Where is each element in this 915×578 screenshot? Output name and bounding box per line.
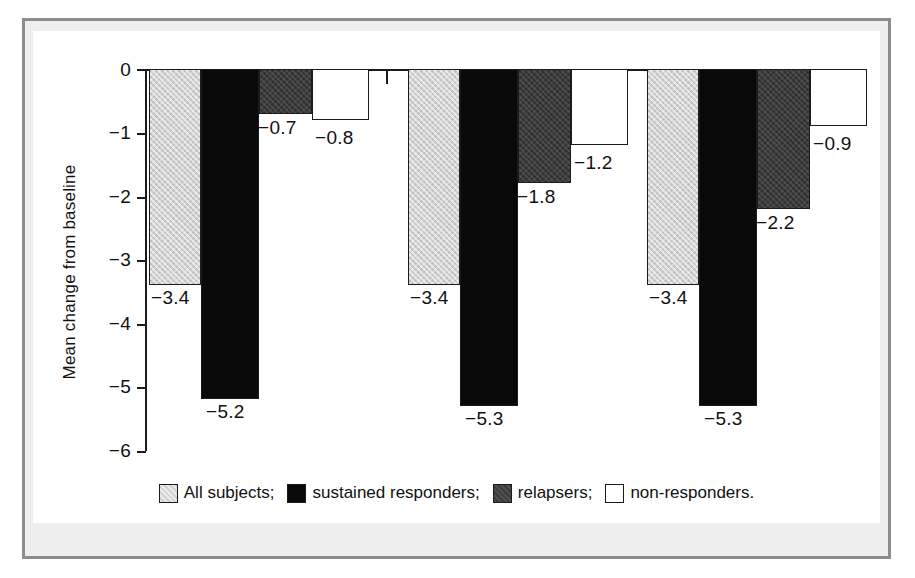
legend-label-relapsers: relapsers;	[518, 483, 593, 503]
value-label-g2-relapsers: −1.8	[517, 186, 556, 208]
bar-g2-relapsers[interactable]	[518, 69, 571, 183]
value-label-g1-relapsers: −0.7	[258, 117, 297, 139]
y-tick-label-3: −3	[87, 249, 131, 271]
legend-item-all-subjects[interactable]: All subjects;	[159, 483, 275, 503]
figure: Mean change from baseline 0 −1 −2 −3 −4 …	[0, 0, 915, 578]
value-label-g1-non-responders: −0.8	[315, 127, 354, 149]
bar-g3-non-responders[interactable]	[810, 69, 867, 126]
y-tick-label-0: 0	[87, 59, 131, 81]
y-axis-line	[145, 70, 147, 451]
value-label-g1-all-subjects: −3.4	[151, 287, 190, 309]
legend-item-relapsers[interactable]: relapsers;	[493, 483, 593, 503]
value-label-g2-sustained-responders: −5.3	[465, 408, 504, 430]
bar-g1-sustained-responders[interactable]	[201, 69, 259, 399]
y-tick-label-5: −5	[87, 376, 131, 398]
value-label-g3-sustained-responders: −5.3	[704, 408, 743, 430]
y-axis-tick-labels: 0 −1 −2 −3 −4 −5 −6	[77, 31, 131, 523]
value-label-g3-non-responders: −0.9	[813, 133, 852, 155]
value-label-g1-sustained-responders: −5.2	[206, 401, 245, 423]
legend-swatch-relapsers-icon	[493, 484, 512, 503]
bar-g3-sustained-responders[interactable]	[699, 69, 757, 406]
legend-swatch-all-subjects-icon	[159, 484, 178, 503]
y-tick-label-4: −4	[87, 313, 131, 335]
y-tick-label-2: −2	[87, 186, 131, 208]
bar-g2-non-responders[interactable]	[571, 69, 628, 145]
bar-g1-relapsers[interactable]	[259, 69, 312, 114]
y-axis-tick-marks	[137, 31, 149, 523]
bar-g1-non-responders[interactable]	[312, 69, 369, 120]
bar-g1-all-subjects[interactable]	[149, 69, 201, 285]
bar-g2-all-subjects[interactable]	[408, 69, 460, 285]
y-tick-mark-6	[137, 451, 146, 453]
legend-item-sustained-responders[interactable]: sustained responders;	[287, 483, 479, 503]
bar-chart: Mean change from baseline 0 −1 −2 −3 −4 …	[33, 31, 880, 523]
plot-card: Mean change from baseline 0 −1 −2 −3 −4 …	[33, 31, 880, 523]
legend-label-all-subjects: All subjects;	[184, 483, 275, 503]
value-label-g2-non-responders: −1.2	[574, 152, 613, 174]
legend-item-non-responders[interactable]: non-responders.	[605, 483, 754, 503]
legend-swatch-sustained-responders-icon	[287, 484, 306, 503]
y-tick-label-1: −1	[87, 122, 131, 144]
legend-label-sustained-responders: sustained responders;	[312, 483, 479, 503]
group-separator-tick-1	[386, 71, 388, 84]
legend-swatch-non-responders-icon	[605, 484, 624, 503]
y-tick-label-6: −6	[87, 440, 131, 462]
bar-g3-all-subjects[interactable]	[647, 69, 699, 285]
value-label-g3-relapsers: −2.2	[756, 212, 795, 234]
bar-g2-sustained-responders[interactable]	[460, 69, 518, 406]
value-label-g2-all-subjects: −3.4	[410, 287, 449, 309]
bar-g3-relapsers[interactable]	[757, 69, 810, 209]
value-label-g3-all-subjects: −3.4	[649, 287, 688, 309]
chart-legend: All subjects; sustained responders; rela…	[33, 476, 880, 510]
legend-label-non-responders: non-responders.	[630, 483, 754, 503]
